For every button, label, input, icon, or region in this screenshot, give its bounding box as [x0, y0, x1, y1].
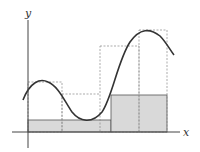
lower-rectangles [28, 95, 167, 132]
riemann-sum-diagram: y x [0, 0, 200, 152]
y-axis-label: y [24, 7, 32, 20]
x-axis-label: x [183, 126, 190, 139]
